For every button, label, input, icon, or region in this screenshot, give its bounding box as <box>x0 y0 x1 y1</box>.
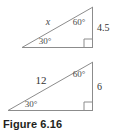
upper-triangle-vertical-side-label: 4.5 <box>97 22 110 33</box>
upper-triangle-top-angle-label: 60° <box>73 17 86 27</box>
upper-triangle-hypotenuse-label: x <box>45 16 51 27</box>
upper-triangle-hypotenuse-line <box>22 7 93 48</box>
upper-triangle-right-angle-icon <box>84 39 93 47</box>
upper-triangle-bottom-angle-label: 30° <box>39 36 52 46</box>
lower-triangle-right-angle-icon <box>84 102 93 110</box>
figure-container: x 60° 30° 4.5 12 60° 30° 6 Figure 6.16 <box>0 0 113 136</box>
lower-triangle-bottom-angle-label: 30° <box>25 99 38 109</box>
lower-triangle-hypotenuse-label: 12 <box>36 74 47 86</box>
upper-triangle <box>22 7 93 48</box>
figure-drawing: x 60° 30° 4.5 12 60° 30° 6 <box>0 0 113 136</box>
figure-caption: Figure 6.16 <box>3 118 113 131</box>
lower-triangle-vertical-side-label: 6 <box>97 81 102 92</box>
lower-triangle-top-angle-label: 60° <box>73 69 86 79</box>
